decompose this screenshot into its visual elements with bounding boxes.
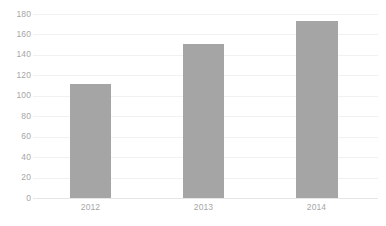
bar-2012[interactable] [70,84,111,199]
x-axis: 2012 2013 2014 [33,202,378,218]
y-tick-label-80: 80 [0,112,31,121]
y-axis: 180 160 140 120 100 80 60 40 20 0 [0,0,31,226]
bars-layer [33,14,378,198]
x-tick-label-2014: 2014 [286,202,347,212]
bar-2014[interactable] [296,21,338,198]
y-tick-label-160: 160 [0,30,31,39]
y-tick-label-40: 40 [0,153,31,162]
y-tick-label-60: 60 [0,132,31,141]
y-tick-label-0: 0 [0,194,31,203]
bar-chart: 180 160 140 120 100 80 60 40 20 0 2012 2… [0,0,386,226]
y-tick-label-140: 140 [0,50,31,59]
bar-2013[interactable] [183,44,224,198]
x-tick-label-2012: 2012 [60,202,121,212]
y-tick-label-20: 20 [0,173,31,182]
plot-area [33,14,378,198]
gridline-baseline-0 [33,198,378,199]
y-tick-label-100: 100 [0,91,31,100]
y-tick-label-180: 180 [0,10,31,19]
x-tick-label-2013: 2013 [173,202,234,212]
y-tick-label-120: 120 [0,71,31,80]
